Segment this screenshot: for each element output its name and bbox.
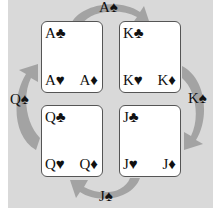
card-jack: J♣ J♥ J♦ — [119, 105, 181, 177]
card-ace-top-left: A♣ — [45, 26, 66, 41]
card-jack-bottom-left: J♥ — [123, 157, 138, 172]
card-ace-bottom-left: A♥ — [45, 73, 65, 88]
arrow-label-right: K♠ — [188, 91, 207, 106]
card-queen-bottom-left: Q♥ — [45, 157, 65, 172]
cycle-arrows — [0, 0, 216, 216]
card-queen: Q♣ Q♥ Q♦ — [41, 105, 103, 177]
arrow-right-icon — [182, 66, 204, 150]
card-king-bottom-right: K♦ — [158, 73, 177, 88]
arrow-label-bottom: J♠ — [99, 189, 113, 204]
card-jack-bottom-right: J♦ — [163, 157, 177, 172]
card-ace: A♣ A♥ A♦ — [41, 21, 103, 93]
arrow-left-icon — [17, 64, 40, 150]
card-jack-top-left: J♣ — [123, 110, 139, 125]
arrow-label-top: A♠ — [99, 0, 118, 15]
card-king: K♣ K♥ K♦ — [119, 21, 181, 93]
card-queen-bottom-right: Q♦ — [80, 157, 99, 172]
card-king-bottom-left: K♥ — [123, 73, 143, 88]
card-ace-bottom-right: A♦ — [80, 73, 99, 88]
arrow-label-left: Q♠ — [10, 92, 29, 107]
card-queen-top-left: Q♣ — [45, 110, 66, 125]
card-king-top-left: K♣ — [123, 26, 144, 41]
